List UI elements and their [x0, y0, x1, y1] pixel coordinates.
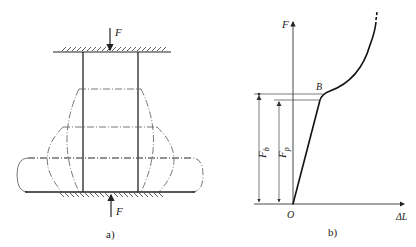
diagram-canvas: F	[0, 0, 416, 247]
x-axis-label: ΔL	[395, 211, 408, 222]
figure-b: F ΔL O B Fb Fp b)	[254, 12, 408, 239]
deformed-stage-2	[47, 127, 174, 192]
bottom-force-arrow: F	[111, 195, 123, 217]
original-cylinder	[83, 52, 138, 192]
top-force-label: F	[114, 26, 122, 38]
figure-b-caption: b)	[328, 226, 338, 239]
top-force-arrow: F	[110, 26, 122, 50]
point-b-label: B	[316, 81, 322, 92]
bottom-force-label: F	[115, 205, 123, 217]
x-axis: ΔL	[254, 204, 408, 222]
deformed-stage-3	[17, 158, 203, 192]
deformed-stage-1	[67, 89, 154, 192]
fb-label: Fb	[256, 147, 271, 159]
figure-a: F	[17, 26, 203, 241]
y-axis: F	[281, 18, 293, 205]
y-axis-label: F	[281, 18, 289, 30]
fp-label: Fp	[276, 147, 291, 159]
origin-label: O	[287, 209, 294, 220]
bottom-plate	[25, 192, 195, 197]
top-plate	[53, 47, 171, 52]
figure-a-caption: a)	[106, 228, 115, 241]
load-deformation-curve	[293, 12, 377, 204]
